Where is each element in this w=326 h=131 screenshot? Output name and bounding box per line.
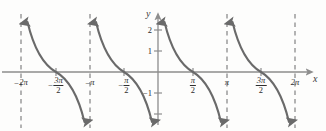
denominator: 2 [256, 86, 267, 95]
tick-value: 2π [291, 77, 300, 87]
x-tick-label-neg-pi-over-2: −π2 [118, 76, 129, 94]
plot-canvas [0, 0, 326, 131]
x-axis-label: x [313, 73, 317, 84]
tick-value: π [90, 77, 94, 87]
denominator: 2 [123, 86, 129, 95]
tick-value: π [225, 77, 229, 87]
tick-value: 2π [19, 77, 28, 87]
y-tick-label-neg-1: −1 [134, 89, 152, 98]
y-tick-label-1: 1 [140, 47, 152, 56]
denominator: 2 [190, 86, 196, 95]
fraction: π2 [123, 76, 129, 94]
x-tick-label-neg-3pi-over-2: −3π2 [48, 76, 63, 94]
x-tick-label-neg-pi: −π [85, 78, 94, 87]
x-tick-label-pi-over-2: π2 [190, 76, 196, 94]
x-tick-label-3pi-over-2: 3π2 [256, 76, 267, 94]
denominator: 2 [53, 86, 64, 95]
cotangent-graph-figure: y x −2π −3π2 −π −π2 π2 π 3π2 2π 2 1 −1 [0, 0, 326, 131]
x-tick-label-2pi: 2π [291, 78, 300, 87]
x-tick-label-neg-2pi: −2π [14, 78, 27, 87]
y-tick-label-2: 2 [140, 26, 152, 35]
fraction: 3π2 [53, 76, 64, 94]
y-axis-label: y [146, 8, 150, 19]
x-tick-label-pi: π [225, 78, 229, 87]
fraction: 3π2 [256, 76, 267, 94]
fraction: π2 [190, 76, 196, 94]
